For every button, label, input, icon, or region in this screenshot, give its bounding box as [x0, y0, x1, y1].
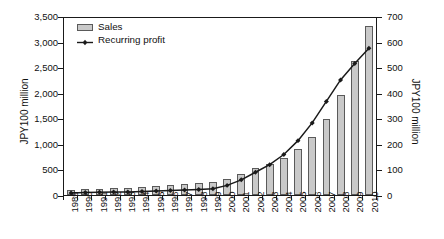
bar-slot: [319, 18, 333, 195]
bar-slot: [234, 18, 248, 195]
bar-slot: [206, 18, 220, 195]
x-tick-mark: [348, 196, 349, 200]
bar-slot: [192, 18, 206, 195]
x-tick-mark: [276, 196, 277, 200]
bar-sales-2005: [294, 149, 302, 195]
y-tick-mark-right: [377, 43, 382, 44]
y-axis-right-title: JPY100 million: [410, 42, 421, 182]
legend-label-recurring-profit: Recurring profit: [98, 34, 165, 47]
x-tick-mark: [362, 196, 363, 200]
y-axis-left-title: JPY100 million: [19, 42, 30, 182]
x-tick-mark: [262, 196, 263, 200]
x-axis-slot: 2006: [306, 196, 320, 239]
x-axis-slot: 1991: [92, 196, 106, 239]
y-tick-label-right: 100: [387, 166, 403, 176]
x-axis-slot: 1990: [77, 196, 91, 239]
x-axis-slot: 1997: [177, 196, 191, 239]
y-tick-label-left: 3,000: [34, 38, 58, 48]
bar-slot: [263, 18, 277, 195]
x-tick-mark: [63, 196, 64, 200]
bar-sales-2007: [323, 119, 331, 195]
bar-sales-2010: [365, 26, 373, 195]
legend-item-recurring-profit: Recurring profit: [77, 34, 165, 47]
y-tick-label-left: 2,000: [34, 89, 58, 99]
chart-legend: Sales Recurring profit: [77, 21, 165, 47]
y-tick-mark-right: [377, 119, 382, 120]
y-tick-label-left: 2,500: [34, 63, 58, 73]
x-tick-mark: [291, 196, 292, 200]
x-axis-slot: 2000: [220, 196, 234, 239]
bar-slot: [220, 18, 234, 195]
y-tick-label-left: 3,500: [34, 12, 58, 22]
y-axis-left: 05001,0001,5002,0002,5003,0003,500: [0, 17, 63, 196]
x-axis-slot: 2007: [320, 196, 334, 239]
x-axis-slot: 1995: [149, 196, 163, 239]
y-tick-mark-right: [377, 94, 382, 95]
x-axis-slot: 1996: [163, 196, 177, 239]
bar-sales-2003: [266, 164, 274, 195]
x-axis-slot: 1999: [206, 196, 220, 239]
y-tick-label-right: 500: [387, 63, 403, 73]
y-tick-mark-right: [377, 68, 382, 69]
x-axis-slot: 1994: [134, 196, 148, 239]
y-tick-label-right: 400: [387, 89, 403, 99]
x-tick-mark: [234, 196, 235, 200]
y-tick-label-right: 0: [387, 191, 392, 201]
bar-slot: [348, 18, 362, 195]
x-tick-mark: [105, 196, 106, 200]
bar-swatch-icon: [77, 24, 93, 31]
y-tick-label-right: 200: [387, 140, 403, 150]
x-tick-mark: [191, 196, 192, 200]
y-tick-label-left: 0: [53, 191, 58, 201]
chart-figure: 05001,0001,5002,0002,5003,0003,500 JPY10…: [0, 0, 444, 239]
x-tick-mark: [148, 196, 149, 200]
y-tick-mark-right: [377, 145, 382, 146]
x-axis-slot: 2002: [248, 196, 262, 239]
y-tick-label-left: 1,500: [34, 115, 58, 125]
x-tick-mark: [305, 196, 306, 200]
bar-slot: [277, 18, 291, 195]
x-tick-mark: [177, 196, 178, 200]
x-axis-slot: 2008: [334, 196, 348, 239]
bar-slot: [305, 18, 319, 195]
x-axis: 1989199019911992199319941995199619971998…: [63, 196, 377, 239]
y-tick-label-right: 300: [387, 115, 403, 125]
bar-sales-2008: [337, 95, 345, 195]
x-axis-slot: 2001: [234, 196, 248, 239]
x-axis-slot: 2003: [263, 196, 277, 239]
x-axis-slot: 2010: [363, 196, 377, 239]
x-axis-slot: 2005: [291, 196, 305, 239]
y-tick-label-right: 700: [387, 12, 403, 22]
x-tick-mark: [319, 196, 320, 200]
bar-sales-2006: [308, 137, 316, 195]
x-axis-slot: 1998: [191, 196, 205, 239]
x-tick-mark: [91, 196, 92, 200]
x-tick-mark: [120, 196, 121, 200]
x-tick-mark: [134, 196, 135, 200]
bar-slot: [178, 18, 192, 195]
x-axis-slot: 1992: [106, 196, 120, 239]
bar-sales-2004: [280, 158, 288, 195]
bar-slot: [362, 18, 376, 195]
x-tick-mark: [162, 196, 163, 200]
bar-sales-2009: [351, 61, 359, 195]
y-tick-mark-right: [377, 170, 382, 171]
x-tick-label-2010: 2010: [370, 191, 380, 212]
x-tick-mark: [77, 196, 78, 200]
x-axis-slot: 1993: [120, 196, 134, 239]
x-tick-mark: [205, 196, 206, 200]
legend-item-sales: Sales: [77, 21, 165, 34]
y-tick-mark-right: [377, 17, 382, 18]
x-tick-mark: [248, 196, 249, 200]
x-axis-slot: 2009: [348, 196, 362, 239]
bar-slot: [248, 18, 262, 195]
x-tick-mark: [334, 196, 335, 200]
y-tick-label-left: 500: [42, 166, 58, 176]
bar-slot: [291, 18, 305, 195]
x-axis-slot: 1989: [63, 196, 77, 239]
line-marker-icon: [77, 37, 93, 44]
x-axis-slot: 2004: [277, 196, 291, 239]
bar-slot: [334, 18, 348, 195]
y-tick-label-right: 600: [387, 38, 403, 48]
legend-label-sales: Sales: [98, 21, 123, 34]
